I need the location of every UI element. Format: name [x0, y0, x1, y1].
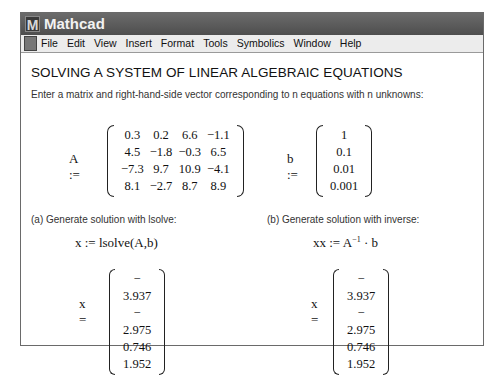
vector-b[interactable]: 10.10.010.001	[316, 125, 372, 197]
window-title: Mathcad	[44, 15, 105, 32]
menu-help[interactable]: Help	[340, 37, 362, 49]
title-bar[interactable]: M Mathcad	[21, 13, 483, 35]
part-a-label: (a) Generate solution with lsolve:	[31, 214, 177, 225]
menu-file[interactable]: File	[41, 37, 58, 49]
inverse-expression[interactable]: xx := A−1 · b	[313, 235, 378, 251]
mathcad-window: M Mathcad File Edit View Insert Format T…	[20, 12, 484, 346]
menu-symbolics[interactable]: Symbolics	[237, 37, 285, 49]
menu-tools[interactable]: Tools	[203, 37, 228, 49]
menu-edit[interactable]: Edit	[67, 37, 85, 49]
mathcad-app-icon: M	[25, 16, 40, 32]
menu-bar: File Edit View Insert Format Tools Symbo…	[21, 35, 483, 53]
result-b-label: x =	[311, 296, 318, 328]
menu-view[interactable]: View	[94, 37, 117, 49]
lsolve-expression[interactable]: x := lsolve(A,b)	[75, 235, 158, 251]
menu-window[interactable]: Window	[294, 37, 331, 49]
matrix-a-label: A :=	[69, 151, 80, 183]
result-b-vector[interactable]: − 3.937− 2.9750.7461.952	[333, 269, 389, 375]
matrix-a[interactable]: 0.30.26.6−1.1 4.5−1.8−0.36.5 −7.39.710.9…	[107, 125, 244, 197]
menu-format[interactable]: Format	[161, 37, 194, 49]
result-a-label: x =	[79, 296, 86, 328]
worksheet[interactable]: SOLVING A SYSTEM OF LINEAR ALGEBRAIC EQU…	[21, 53, 483, 346]
intro-text: Enter a matrix and right-hand-side vecto…	[31, 89, 423, 100]
part-b-label: (b) Generate solution with inverse:	[267, 214, 419, 225]
vector-b-label: b :=	[287, 151, 298, 183]
result-a-vector[interactable]: − 3.937− 2.9750.7461.952	[109, 269, 165, 375]
worksheet-heading: SOLVING A SYSTEM OF LINEAR ALGEBRAIC EQU…	[31, 65, 403, 80]
menu-insert[interactable]: Insert	[126, 37, 152, 49]
document-icon[interactable]	[24, 36, 37, 51]
